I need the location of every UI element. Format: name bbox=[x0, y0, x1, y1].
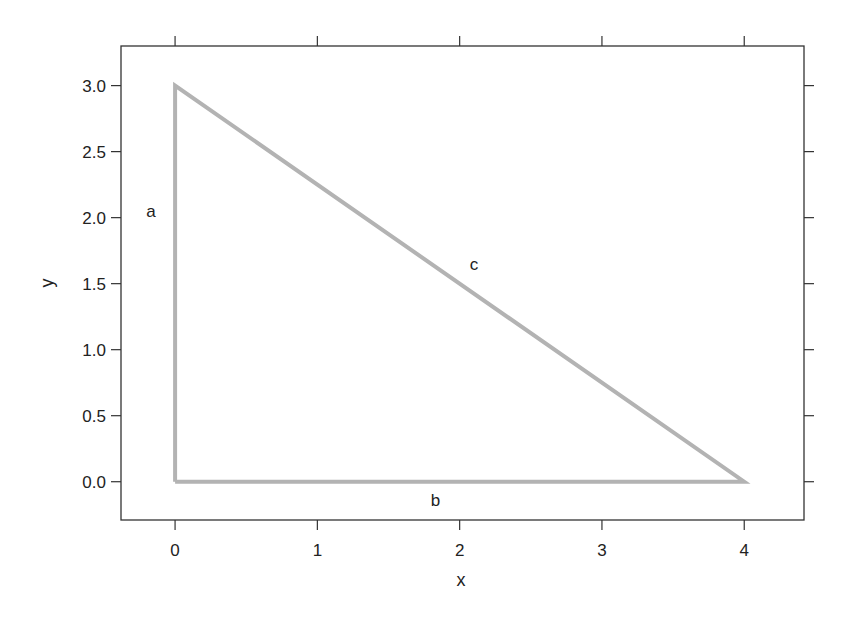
edge-label-c: c bbox=[470, 255, 479, 274]
edge-label-a: a bbox=[146, 202, 156, 221]
y-tick-label: 1.0 bbox=[82, 341, 106, 360]
series-triangle bbox=[175, 86, 744, 482]
x-tick-label: 2 bbox=[455, 541, 464, 560]
x-tick-label: 3 bbox=[597, 541, 606, 560]
y-tick-label: 1.5 bbox=[82, 275, 106, 294]
series-layer bbox=[175, 86, 744, 482]
y-tick-label: 0.0 bbox=[82, 473, 106, 492]
y-tick-label: 0.5 bbox=[82, 407, 106, 426]
y-tick-label: 3.0 bbox=[82, 77, 106, 96]
x-axis-title: x bbox=[457, 570, 466, 590]
y-axis-title: y bbox=[37, 279, 57, 288]
x-tick-label: 0 bbox=[170, 541, 179, 560]
x-tick-label: 1 bbox=[313, 541, 322, 560]
y-tick-label: 2.5 bbox=[82, 143, 106, 162]
y-tick-label: 2.0 bbox=[82, 209, 106, 228]
chart: abc 01234 0.00.51.01.52.02.53.0 x y bbox=[0, 0, 855, 617]
y-axis: 0.00.51.01.52.02.53.0 bbox=[82, 77, 814, 492]
edge-label-b: b bbox=[431, 491, 440, 510]
x-tick-label: 4 bbox=[740, 541, 749, 560]
annotation-layer: abc bbox=[146, 202, 478, 510]
triangle-plot: abc 01234 0.00.51.01.52.02.53.0 x y bbox=[0, 0, 855, 617]
